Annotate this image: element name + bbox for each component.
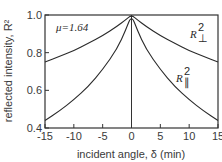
y-tick-label: 0.4: [27, 122, 42, 134]
r-perp-label-main: R: [189, 28, 197, 40]
mu-annotation: μ=1.64: [55, 21, 89, 33]
y-axis-label: reflected intensity, R²: [2, 19, 14, 122]
x-axis-label: incident angle, δ (min): [77, 148, 185, 160]
r-par-label-sub: ∥: [184, 76, 190, 89]
y-tick-label: 0.6: [27, 84, 42, 96]
r-par-label: R 2 ∥: [175, 65, 190, 89]
x-tick-label: -5: [98, 130, 108, 142]
y-tick-label: 1.0: [27, 9, 42, 21]
x-tick-label: 5: [157, 130, 163, 142]
x-tick-label: -10: [66, 130, 82, 142]
x-tick-label: 10: [183, 130, 195, 142]
r-par-label-main: R: [175, 72, 183, 84]
chart: -15-10-50510150.40.60.81.0 μ=1.64 R 2 ⊥ …: [0, 0, 222, 162]
y-tick-label: 0.8: [27, 47, 42, 59]
r-perp-label: R 2 ⊥: [189, 21, 208, 44]
r-perp-label-sub: ⊥: [198, 32, 208, 44]
x-tick-label: 0: [128, 130, 134, 142]
x-tick-label: 15: [212, 130, 222, 142]
